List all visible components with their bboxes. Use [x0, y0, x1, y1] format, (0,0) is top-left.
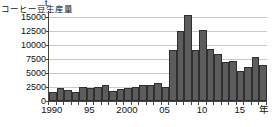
bar-series — [49, 11, 267, 101]
bar — [109, 91, 117, 101]
bar — [79, 87, 87, 101]
bar — [207, 49, 215, 101]
bar — [147, 85, 155, 101]
x-axis-tick-label: 2000 — [116, 104, 137, 115]
bar — [252, 57, 260, 101]
bar — [117, 89, 125, 101]
x-axis-title: 年 — [259, 104, 269, 115]
bar — [72, 92, 80, 101]
bar — [199, 30, 207, 101]
y-axis-tick-label: 10000 — [12, 40, 46, 49]
y-axis-tick-label: 7500 — [12, 54, 46, 63]
y-axis-tick-label: 2500 — [12, 82, 46, 91]
bar — [64, 90, 72, 101]
bar — [49, 92, 57, 101]
x-axis-tick-label: 15 — [234, 104, 245, 115]
bar — [259, 65, 267, 101]
bar — [214, 54, 222, 101]
x-axis-tick-label: 1990 — [41, 104, 62, 115]
bar — [154, 83, 162, 101]
x-axis-tick-labels: 1990952000051015 — [48, 104, 266, 118]
x-axis-tick-label: 95 — [84, 104, 95, 115]
x-axis-tick-label: 10 — [197, 104, 208, 115]
bar — [162, 87, 170, 101]
bar — [177, 31, 185, 101]
bar — [57, 88, 65, 101]
bar — [124, 88, 132, 101]
bar — [132, 87, 140, 101]
bar — [87, 88, 95, 102]
bar — [229, 61, 237, 101]
bar — [222, 62, 230, 101]
x-axis-tick-label: 05 — [159, 104, 170, 115]
bar — [169, 50, 177, 101]
bar — [192, 50, 200, 101]
y-axis-tick-label: 12500 — [12, 26, 46, 35]
bar — [244, 67, 252, 101]
y-axis-tick-label: 15000 — [12, 12, 46, 21]
coffee-bean-production-bar-chart: コーヒー豆生産量 t 0250050007500100001250015000 … — [0, 0, 272, 127]
bar — [139, 85, 147, 101]
y-axis-tick-label: 5000 — [12, 68, 46, 77]
bar — [184, 15, 192, 101]
bar — [102, 85, 110, 101]
bar — [94, 87, 102, 101]
bar — [237, 71, 245, 101]
plot-area — [48, 11, 267, 102]
